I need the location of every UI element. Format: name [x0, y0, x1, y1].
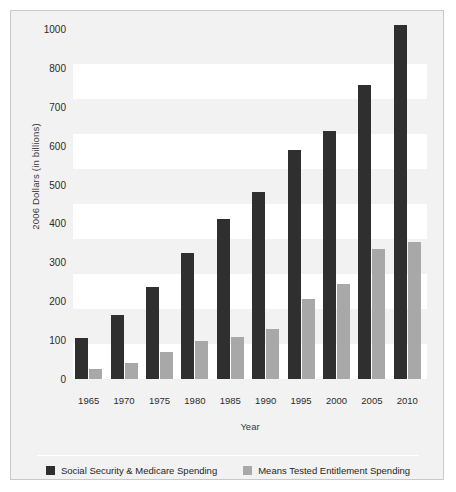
bar-means-tested-1975: [160, 352, 173, 379]
y-axis-tick-label: 400: [49, 218, 66, 229]
bar-group: [288, 29, 315, 389]
x-axis-tick-label: 1980: [184, 395, 205, 406]
bar-group: [217, 29, 244, 389]
bar-social-security-medicare-2000: [323, 131, 336, 380]
bar-means-tested-1995: [302, 299, 315, 380]
legend-item: Means Tested Entitlement Spending: [243, 465, 410, 476]
x-axis-tick-label: 2005: [361, 395, 382, 406]
x-axis-tick-label: 1965: [78, 395, 99, 406]
y-axis-tick-label: 800: [49, 62, 66, 73]
bar-means-tested-1990: [266, 329, 279, 379]
bar-social-security-medicare-1980: [181, 253, 194, 379]
bar-social-security-medicare-1985: [217, 219, 230, 379]
y-axis-tick-label: 1000: [44, 24, 66, 35]
y-axis-tick-label: 300: [49, 257, 66, 268]
bar-group: [75, 29, 102, 389]
y-axis-tick-label: 100: [49, 335, 66, 346]
bar-group: [394, 29, 421, 389]
bar-means-tested-1965: [89, 369, 102, 380]
y-axis-tick-label: 700: [49, 101, 66, 112]
bar-group: [323, 29, 350, 389]
bar-social-security-medicare-1965: [75, 338, 88, 379]
bar-social-security-medicare-2005: [358, 85, 371, 379]
x-axis-tick-label: 1970: [114, 395, 135, 406]
legend-label: Means Tested Entitlement Spending: [258, 465, 410, 476]
y-axis-tick-label: 0: [60, 374, 66, 385]
x-axis-title: Year: [73, 421, 427, 432]
bar-group: [252, 29, 279, 389]
x-axis-tick-label: 2010: [397, 395, 418, 406]
legend-swatch-icon: [243, 466, 252, 475]
x-axis-tick-label: 1975: [149, 395, 170, 406]
y-axis-tick-label: 600: [49, 140, 66, 151]
legend-item: Social Security & Medicare Spending: [46, 465, 217, 476]
x-axis-tick-label: 1990: [255, 395, 276, 406]
bar-means-tested-1970: [125, 363, 138, 379]
bar-group: [146, 29, 173, 389]
bar-group: [181, 29, 208, 389]
chart-page: 2006 Dollars (in billions) 1000800700600…: [0, 0, 456, 492]
bar-social-security-medicare-1995: [288, 150, 301, 379]
bar-means-tested-2005: [372, 249, 385, 379]
legend-divider: [37, 455, 419, 456]
legend-swatch-icon: [46, 466, 55, 475]
bar-group: [358, 29, 385, 389]
bar-group: [111, 29, 138, 389]
bar-means-tested-2010: [408, 242, 421, 379]
figure-frame: 2006 Dollars (in billions) 1000800700600…: [10, 10, 444, 480]
bar-means-tested-1985: [231, 337, 244, 379]
y-axis-tick-label: 200: [49, 296, 66, 307]
bar-social-security-medicare-2010: [394, 25, 407, 379]
x-axis-tick-label: 1995: [291, 395, 312, 406]
bar-means-tested-2000: [337, 284, 350, 379]
bar-means-tested-1980: [195, 341, 208, 380]
x-axis-tick-label: 2000: [326, 395, 347, 406]
bar-social-security-medicare-1975: [146, 287, 159, 379]
bar-social-security-medicare-1990: [252, 192, 265, 379]
legend-label: Social Security & Medicare Spending: [61, 465, 217, 476]
x-axis-tick-label: 1985: [220, 395, 241, 406]
y-axis-title: 2006 Dollars (in billions): [30, 77, 41, 277]
plot-area: 10008007006005004003002001000: [73, 29, 427, 389]
bars-layer: [73, 29, 427, 389]
y-axis-tick-label: 500: [49, 179, 66, 190]
chart-legend: Social Security & Medicare SpendingMeans…: [37, 465, 419, 476]
bar-social-security-medicare-1970: [111, 315, 124, 379]
